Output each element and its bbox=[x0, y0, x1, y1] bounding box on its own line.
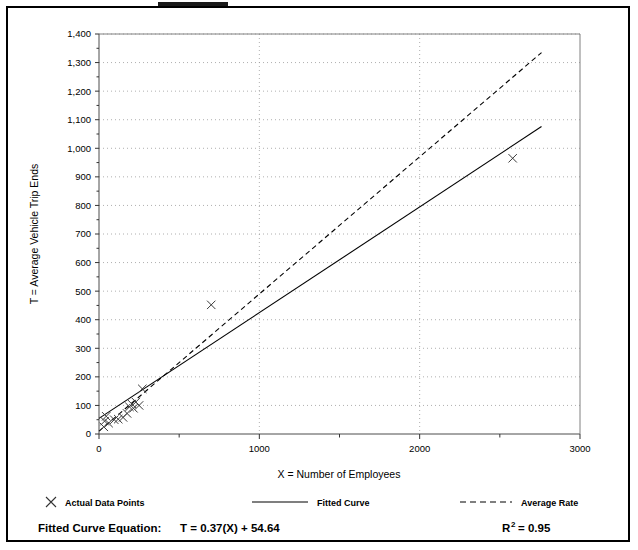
legend-item-actual-data-points: Actual Data Points bbox=[46, 497, 145, 508]
data-point-marker bbox=[123, 409, 131, 417]
y-tick-label: 0 bbox=[86, 428, 91, 439]
top-edge-artifact bbox=[158, 2, 228, 6]
y-axis-tick-labels: 01002003004005006007008009001,0001,1001,… bbox=[67, 28, 91, 439]
r-squared-exponent: 2 bbox=[511, 520, 516, 529]
x-axis-title: X = Number of Employees bbox=[278, 468, 401, 480]
x-tick-label: 3000 bbox=[569, 443, 590, 454]
y-tick-label: 900 bbox=[75, 171, 91, 182]
legend: Actual Data Points Fitted Curve Average … bbox=[46, 497, 578, 508]
legend-label-average-rate: Average Rate bbox=[521, 498, 578, 508]
data-point-marker bbox=[508, 154, 516, 162]
legend-item-fitted-curve: Fitted Curve bbox=[252, 498, 370, 508]
y-tick-label: 1,300 bbox=[67, 57, 91, 68]
data-point-marker bbox=[138, 385, 146, 393]
y-tick-label: 1,100 bbox=[67, 114, 91, 125]
y-tick-label: 600 bbox=[75, 257, 91, 268]
series-fitted-curve bbox=[99, 127, 542, 419]
y-tick-label: 1,000 bbox=[67, 143, 91, 154]
plot-region: 01002003004005006007008009001,0001,1001,… bbox=[8, 8, 628, 540]
data-point-marker bbox=[104, 419, 112, 427]
y-tick-label: 400 bbox=[75, 314, 91, 325]
scatter-chart: 01002003004005006007008009001,0001,1001,… bbox=[8, 8, 628, 540]
y-tick-label: 100 bbox=[75, 400, 91, 411]
legend-label-actual-data-points: Actual Data Points bbox=[65, 498, 145, 508]
y-tick-label: 200 bbox=[75, 371, 91, 382]
y-tick-label: 800 bbox=[75, 200, 91, 211]
r-squared-value: = 0.95 bbox=[518, 522, 551, 534]
r-squared-label: R bbox=[502, 522, 511, 534]
fitted-curve-equation-value: T = 0.37(X) + 54.64 bbox=[180, 522, 280, 534]
legend-item-average-rate: Average Rate bbox=[460, 498, 578, 508]
x-axis-ticks bbox=[99, 434, 580, 439]
x-tick-label: 1000 bbox=[249, 443, 270, 454]
y-tick-label: 700 bbox=[75, 228, 91, 239]
y-tick-label: 300 bbox=[75, 343, 91, 354]
legend-label-fitted-curve: Fitted Curve bbox=[317, 498, 370, 508]
chart-figure-frame: 01002003004005006007008009001,0001,1001,… bbox=[6, 6, 630, 542]
y-axis-title: T = Average Vehicle Trip Ends bbox=[28, 164, 40, 305]
y-tick-label: 1,400 bbox=[67, 28, 91, 39]
x-axis-tick-labels: 0100020003000 bbox=[96, 443, 590, 454]
x-tick-label: 0 bbox=[96, 443, 101, 454]
series-actual-data-points bbox=[100, 154, 517, 431]
x-marker-icon bbox=[46, 497, 56, 507]
footer: Fitted Curve Equation: T = 0.37(X) + 54.… bbox=[38, 520, 551, 534]
data-point-marker bbox=[207, 301, 215, 309]
horizontal-gridlines bbox=[99, 34, 580, 405]
fitted-curve-equation-label: Fitted Curve Equation: bbox=[38, 522, 161, 534]
x-tick-label: 2000 bbox=[409, 443, 430, 454]
fitted-curve-line bbox=[99, 127, 542, 419]
y-axis-ticks bbox=[95, 34, 99, 434]
y-tick-label: 500 bbox=[75, 286, 91, 297]
y-tick-label: 1,200 bbox=[67, 86, 91, 97]
